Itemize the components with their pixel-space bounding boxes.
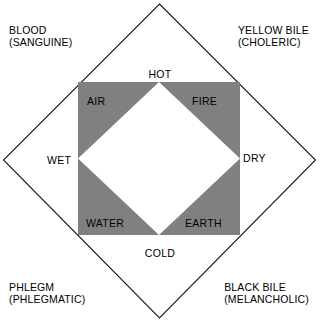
humour-label-black-bile: BLACK BILE (MELANCHOLIC) <box>224 281 309 306</box>
diagram-canvas: BLOOD (SANGUINE) YELLOW BILE (CHOLERIC) … <box>0 0 320 332</box>
humour-temperament-phlegm: (PHLEGMATIC) <box>9 293 85 305</box>
element-label-earth: EARTH <box>185 217 222 229</box>
humour-label-yellow-bile: YELLOW BILE (CHOLERIC) <box>238 24 309 49</box>
humour-name-black-bile: BLACK BILE <box>224 281 309 293</box>
humour-temperament-yellow-bile: (CHOLERIC) <box>238 36 309 48</box>
quality-label-dry: DRY <box>243 152 266 164</box>
element-label-fire: FIRE <box>192 95 217 107</box>
humour-label-phlegm: PHLEGM (PHLEGMATIC) <box>9 281 85 306</box>
humour-name-phlegm: PHLEGM <box>9 281 85 293</box>
element-label-air: AIR <box>87 95 105 107</box>
humour-name-blood: BLOOD <box>9 24 72 36</box>
humour-name-yellow-bile: YELLOW BILE <box>238 24 309 36</box>
quality-label-hot: HOT <box>0 68 320 80</box>
quality-label-wet: WET <box>47 154 71 166</box>
humour-temperament-blood: (SANGUINE) <box>9 36 72 48</box>
element-label-water: WATER <box>86 217 124 229</box>
humour-temperament-black-bile: (MELANCHOLIC) <box>224 293 309 305</box>
quality-label-cold: COLD <box>0 247 320 259</box>
humour-label-blood: BLOOD (SANGUINE) <box>9 24 72 49</box>
